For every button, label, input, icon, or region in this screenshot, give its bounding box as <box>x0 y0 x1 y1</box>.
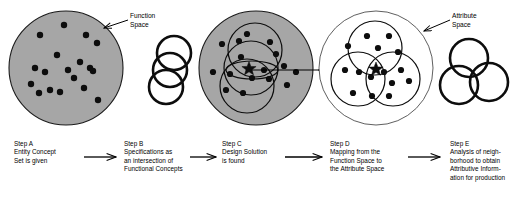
concept-dot <box>210 69 216 75</box>
concept-dot <box>236 38 242 44</box>
entity-dot <box>37 32 43 38</box>
concept-dot <box>249 75 255 81</box>
attribute-dot <box>375 45 381 51</box>
attribute-space-callout-arrow <box>424 20 450 31</box>
entity-dot <box>71 75 77 81</box>
step-a-caption: Step A Entity Concept Set is given <box>14 140 86 165</box>
entity-dot <box>28 81 34 87</box>
neighborhood-ring <box>450 39 488 77</box>
attribute-dot <box>350 90 356 96</box>
attribute-dot <box>345 43 351 49</box>
function-space-callout-arrow <box>104 20 128 28</box>
attribute-dot <box>364 33 370 39</box>
step-c-graphic <box>199 11 313 125</box>
concept-dot <box>240 90 246 96</box>
attribute-dot <box>368 74 374 80</box>
neighborhood-ring <box>470 63 508 101</box>
entity-dot <box>90 68 96 74</box>
attribute-dot <box>356 69 362 75</box>
attribute-dot <box>386 93 392 99</box>
step-b-graphic <box>149 36 191 104</box>
concept-dot <box>284 82 290 88</box>
step-c-caption: Step C Design Solution is found <box>222 140 288 165</box>
process-diagram: Function Space Attribute Space Step A En… <box>0 0 525 197</box>
step-d-graphic <box>319 11 450 125</box>
attribute-dot <box>406 78 412 84</box>
entity-dot <box>42 69 48 75</box>
attribute-dot <box>389 80 395 86</box>
step-a-graphic <box>9 11 128 125</box>
concept-dot <box>281 63 287 69</box>
entity-dot <box>81 85 87 91</box>
attribute-dot <box>369 93 375 99</box>
concept-dot <box>238 54 244 60</box>
attribute-space-label: Attribute Space <box>452 12 477 29</box>
attribute-dot <box>381 69 387 75</box>
function-space-label: Function Space <box>130 12 155 29</box>
entity-dot <box>57 89 63 95</box>
entity-dot <box>54 52 60 58</box>
entity-dot <box>36 90 42 96</box>
entity-dot <box>95 97 101 103</box>
concept-dot <box>227 71 233 77</box>
attribute-dot <box>342 67 348 73</box>
step-d-caption: Step D Mapping from the Function Space t… <box>330 140 408 174</box>
attribute-dot <box>386 33 392 39</box>
function-space-disc-solution <box>199 11 313 125</box>
concept-dot <box>273 51 279 57</box>
step-e-graphic <box>440 39 508 104</box>
diagram-canvas <box>0 0 525 197</box>
entity-dot <box>61 22 67 28</box>
concept-dot <box>244 31 250 37</box>
attribute-dot <box>395 49 401 55</box>
attribute-dot <box>398 67 404 73</box>
concept-dot <box>266 76 272 82</box>
step-b-caption: Step B Specifications as an intersection… <box>124 140 194 174</box>
entity-dot <box>94 40 100 46</box>
concept-dot <box>223 87 229 93</box>
concept-dot <box>267 39 273 45</box>
entity-dot <box>65 67 71 73</box>
step-e-caption: Step E Analysis of neigh- borhood to obt… <box>450 140 522 182</box>
entity-dot <box>83 32 89 38</box>
concept-dot <box>219 41 225 47</box>
entity-dot <box>32 65 38 71</box>
entity-dot <box>47 87 53 93</box>
entity-dot <box>77 59 83 65</box>
